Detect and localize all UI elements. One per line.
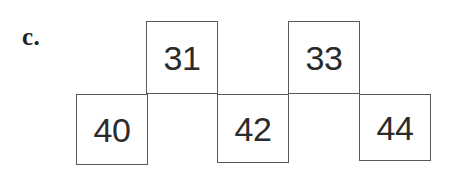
part-label-c: c. [22,24,40,49]
number-cell-value: 44 [377,111,414,145]
number-pattern-figure: c. 40 31 42 33 44 [0,0,454,169]
number-cell-value: 31 [164,41,201,75]
number-cell-40[interactable]: 40 [76,94,148,165]
number-cell-value: 42 [235,112,272,146]
number-cell-31[interactable]: 31 [146,21,218,94]
number-cell-33[interactable]: 33 [288,21,360,94]
number-cell-value: 33 [306,41,343,75]
number-cell-44[interactable]: 44 [359,94,431,161]
number-cell-42[interactable]: 42 [217,94,289,163]
number-cell-value: 40 [94,113,131,147]
